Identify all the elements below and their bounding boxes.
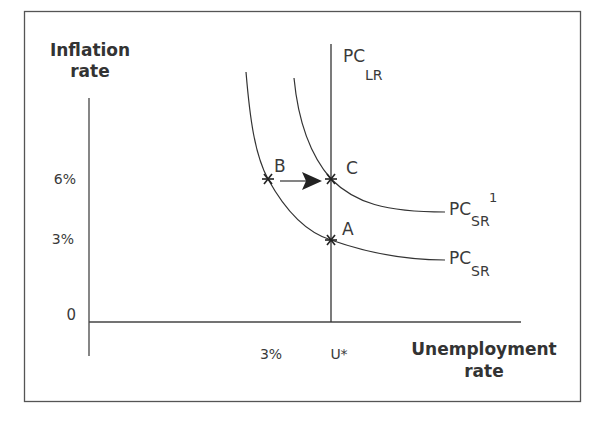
y-tick-0: 0 <box>66 306 76 324</box>
svg-text:SR: SR <box>471 213 490 229</box>
y-tick-3pct: 3% <box>52 231 74 247</box>
x-tick-3pct: 3% <box>260 346 282 362</box>
svg-text:PC: PC <box>343 46 365 66</box>
pc-lr-label: PC LR <box>343 46 383 83</box>
svg-text:PC: PC <box>449 248 471 268</box>
svg-text:LR: LR <box>365 67 383 83</box>
point-c-label: C <box>346 158 358 178</box>
phillips-curve-diagram: Inflation rate Unemployment rate 6% 3% 0… <box>0 0 597 422</box>
svg-text:SR: SR <box>471 263 490 279</box>
pc-sr1-curve <box>294 78 445 212</box>
x-axis-title: Unemployment <box>411 339 556 359</box>
point-b-label: B <box>274 156 286 176</box>
y-tick-6pct: 6% <box>54 171 76 187</box>
y-axis-title: Inflation <box>50 40 130 60</box>
pc-sr-label: PC SR <box>449 248 490 279</box>
pc-sr1-label: PC SR 1 <box>449 190 497 229</box>
arrow-b-to-c <box>280 172 322 190</box>
point-a-label: A <box>342 219 354 239</box>
x-tick-ustar: U* <box>330 346 347 362</box>
svg-text:PC: PC <box>449 199 471 219</box>
x-axis-title-line2: rate <box>464 361 504 381</box>
svg-text:1: 1 <box>489 190 497 205</box>
point-b-marker <box>262 174 274 184</box>
y-axis-title-line2: rate <box>70 61 110 81</box>
